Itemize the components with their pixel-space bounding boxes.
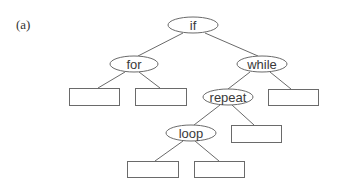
leaf-box-4 (232, 126, 282, 143)
leaf-box-5 (128, 162, 179, 178)
leaf-box-2 (136, 89, 187, 106)
node-loop-label: loop (179, 126, 204, 141)
node-if: if (168, 17, 218, 33)
edge-if-for (138, 33, 183, 56)
leaf-box-1 (70, 89, 120, 106)
edge-loop-box6 (195, 141, 219, 161)
node-repeat: repeat (203, 89, 253, 105)
edge-if-while (205, 33, 258, 56)
edge-repeat-box4 (232, 105, 254, 125)
node-for: for (110, 56, 158, 72)
leaf-box-6 (195, 162, 245, 178)
edge-loop-box5 (155, 141, 183, 161)
node-repeat-label: repeat (210, 90, 247, 105)
syntax-tree-diagram: (a) if for while repeat loop (0, 0, 358, 182)
leaf-box-3 (269, 90, 319, 106)
edge-repeat-loop (194, 105, 220, 125)
node-while-label: while (246, 57, 277, 72)
edge-for-box2 (139, 72, 160, 88)
edge-for-box1 (98, 72, 125, 88)
node-while: while (237, 56, 287, 72)
node-for-label: for (126, 57, 142, 72)
panel-label: (a) (16, 17, 30, 32)
edge-while-box3 (270, 72, 291, 89)
edge-while-repeat (228, 72, 250, 89)
node-loop: loop (166, 125, 216, 141)
node-if-label: if (190, 18, 197, 33)
